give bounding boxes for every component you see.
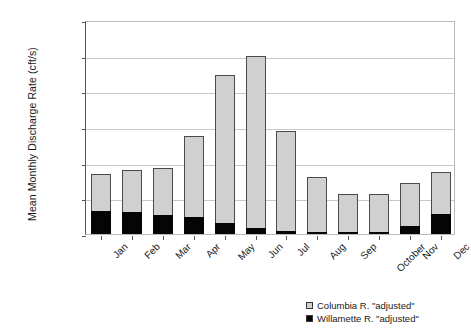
bar-segment-columbia[interactable] (153, 168, 173, 215)
legend-swatch-willamette-icon (306, 315, 313, 322)
bar-segment-willamette[interactable] (369, 232, 389, 234)
x-axis-label-october: October (394, 241, 427, 274)
x-axis-tick-mark (194, 236, 195, 240)
bar-segment-willamette[interactable] (276, 231, 296, 234)
x-axis-tick-mark (132, 236, 133, 240)
bar-segment-columbia[interactable] (122, 170, 142, 212)
y-axis-title: Mean Monthly Discharge Rate (cft/s) (26, 24, 38, 244)
legend-item-willamette: Willamette R. "adjusted" (306, 312, 419, 325)
bar-segment-columbia[interactable] (307, 177, 327, 232)
bar-group[interactable] (122, 170, 142, 234)
bar-segment-columbia[interactable] (369, 194, 389, 231)
bar-segment-columbia[interactable] (184, 136, 204, 217)
chart-legend: Columbia R. "adjusted" Willamette R. "ad… (306, 299, 419, 325)
x-axis-tick-mark (163, 236, 164, 240)
bar-segment-willamette[interactable] (431, 214, 451, 234)
bar-segment-columbia[interactable] (91, 174, 111, 211)
bar-series-container (86, 22, 454, 234)
x-axis-label-apr: Apr (203, 241, 222, 260)
x-axis-tick-mark (410, 236, 411, 240)
bar-segment-columbia[interactable] (431, 172, 451, 213)
bar-group[interactable] (338, 194, 358, 234)
x-axis-label-feb: Feb (142, 241, 162, 261)
bar-segment-willamette[interactable] (184, 217, 204, 234)
bar-group[interactable] (307, 177, 327, 234)
bar-segment-columbia[interactable] (400, 183, 420, 226)
x-axis-tick-mark (348, 236, 349, 240)
x-axis-tick-mark (317, 236, 318, 240)
x-axis-label-may: May (235, 241, 256, 262)
legend-label-columbia: Columbia R. "adjusted" (317, 299, 415, 312)
bar-segment-willamette[interactable] (122, 212, 142, 234)
x-axis-label-jul: Jul (295, 241, 312, 258)
bar-group[interactable] (400, 183, 420, 234)
x-axis-tick-mark (379, 236, 380, 240)
x-axis-label-dec: Dec (451, 241, 471, 261)
bar-group[interactable] (215, 75, 235, 234)
x-axis-label-mar: Mar (173, 241, 193, 261)
x-axis-tick-mark (101, 236, 102, 240)
bar-group[interactable] (369, 194, 389, 234)
bar-segment-willamette[interactable] (246, 228, 266, 234)
bar-segment-willamette[interactable] (215, 223, 235, 234)
x-axis-tick-mark (286, 236, 287, 240)
x-axis-label-jun: Jun (265, 241, 284, 260)
bar-group[interactable] (91, 174, 111, 234)
bar-segment-willamette[interactable] (153, 215, 173, 234)
bar-segment-columbia[interactable] (338, 194, 358, 232)
bar-segment-willamette[interactable] (307, 232, 327, 234)
y-axis-tick-mark (82, 236, 86, 237)
x-axis-tick-mark (225, 236, 226, 240)
x-axis-tick-mark (256, 236, 257, 240)
legend-label-willamette: Willamette R. "adjusted" (317, 312, 419, 325)
bar-group[interactable] (246, 56, 266, 234)
legend-swatch-columbia-icon (306, 302, 313, 309)
bar-group[interactable] (153, 168, 173, 234)
x-axis-label-aug: Aug (327, 241, 347, 261)
bar-group[interactable] (184, 136, 204, 234)
bar-group[interactable] (276, 131, 296, 234)
bar-segment-columbia[interactable] (276, 131, 296, 231)
bar-segment-willamette[interactable] (91, 211, 111, 234)
x-axis-label-sep: Sep (358, 241, 378, 261)
bar-segment-columbia[interactable] (215, 75, 235, 223)
bar-segment-willamette[interactable] (400, 226, 420, 234)
legend-item-columbia: Columbia R. "adjusted" (306, 299, 419, 312)
plot-area: 600,000500,000400,000300,000200,000100,0… (85, 21, 455, 235)
bar-segment-willamette[interactable] (338, 232, 358, 234)
bar-group[interactable] (431, 172, 451, 234)
x-axis-tick-mark (441, 236, 442, 240)
x-axis-label-jan: Jan (111, 241, 130, 260)
bar-segment-columbia[interactable] (246, 56, 266, 228)
